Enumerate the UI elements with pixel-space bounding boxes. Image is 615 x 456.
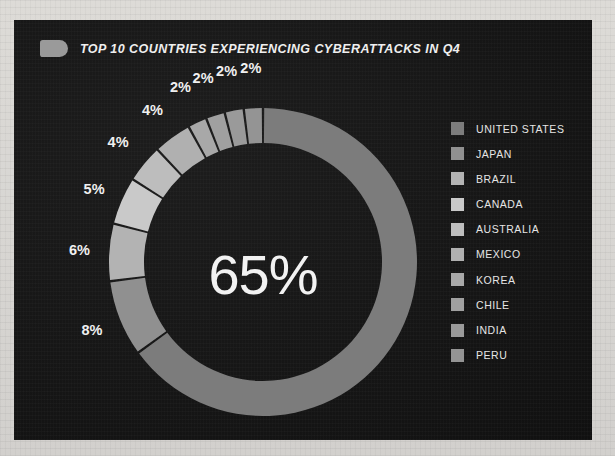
legend-item[interactable]: CANADA <box>451 198 564 211</box>
legend-item[interactable]: INDIA <box>451 324 564 337</box>
chart-legend: UNITED STATESJAPANBRAZILCANADAAUSTRALIAM… <box>451 122 564 362</box>
donut-slice-label: 5% <box>84 181 105 197</box>
legend-item-label: UNITED STATES <box>476 123 564 135</box>
donut-slice-label: 4% <box>108 134 129 150</box>
donut-slice-label: 4% <box>142 102 163 118</box>
legend-item-label: JAPAN <box>476 148 512 160</box>
donut-slice-label: 8% <box>81 322 102 338</box>
donut-slice-label: 2% <box>216 63 237 79</box>
donut-slice-label: 2% <box>170 79 191 95</box>
legend-color-swatch <box>451 273 464 286</box>
legend-color-swatch <box>451 349 464 362</box>
legend-item-label: MEXICO <box>476 248 521 260</box>
donut-slice[interactable] <box>245 108 262 144</box>
legend-item[interactable]: UNITED STATES <box>451 122 564 135</box>
legend-item[interactable]: JAPAN <box>451 147 564 160</box>
legend-item[interactable]: AUSTRALIA <box>451 223 564 236</box>
legend-color-swatch <box>451 248 464 261</box>
legend-item-label: BRAZIL <box>476 173 516 185</box>
legend-color-swatch <box>451 298 464 311</box>
legend-item-label: KOREA <box>476 274 516 286</box>
legend-item-label: AUSTRALIA <box>476 223 539 235</box>
legend-color-swatch <box>451 223 464 236</box>
legend-color-swatch <box>451 172 464 185</box>
legend-color-swatch <box>451 147 464 160</box>
legend-item[interactable]: MEXICO <box>451 248 564 261</box>
legend-color-swatch <box>451 122 464 135</box>
legend-color-swatch <box>451 324 464 337</box>
legend-color-swatch <box>451 198 464 211</box>
legend-item-label: INDIA <box>476 324 507 336</box>
donut-slice-label: 2% <box>193 70 214 86</box>
legend-item[interactable]: PERU <box>451 349 564 362</box>
donut-slice-label: 2% <box>240 60 261 76</box>
legend-item[interactable]: KOREA <box>451 273 564 286</box>
legend-item[interactable]: BRAZIL <box>451 172 564 185</box>
chart-panel: TOP 10 COUNTRIES EXPERIENCING CYBERATTAC… <box>14 20 592 440</box>
donut-slice-label: 6% <box>69 242 90 258</box>
legend-item-label: CANADA <box>476 198 523 210</box>
donut-slice[interactable] <box>109 225 148 280</box>
donut-center-value: 65% <box>208 243 317 306</box>
legend-item-label: PERU <box>476 349 507 361</box>
legend-item[interactable]: CHILE <box>451 298 564 311</box>
legend-item-label: CHILE <box>476 299 510 311</box>
